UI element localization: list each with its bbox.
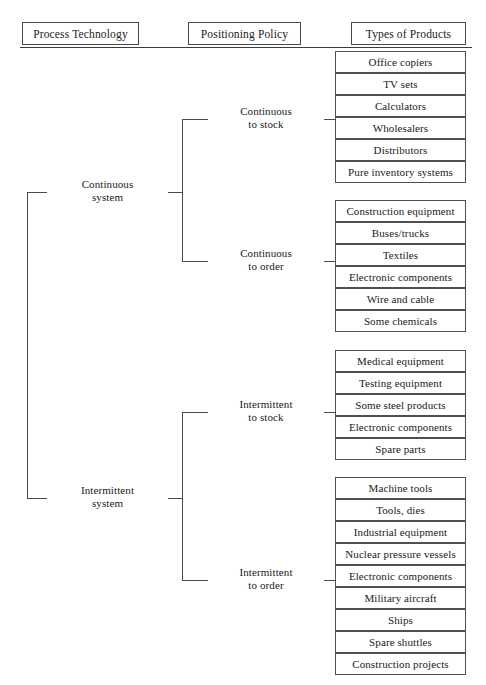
product-box: TV sets [335, 73, 466, 95]
product-box: Medical equipment [335, 350, 466, 372]
product-box-label: Ships [388, 614, 413, 626]
product-box-label: Spare shuttles [369, 636, 432, 648]
product-box-label: Some chemicals [364, 315, 437, 327]
product-box-label: Tools, dies [376, 504, 425, 516]
product-box-label: Electronic components [349, 271, 452, 283]
product-box: Wire and cable [335, 288, 466, 310]
product-box-label: Medical equipment [357, 355, 444, 367]
product-box: Spare shuttles [335, 631, 466, 653]
column-header-types-of-products: Types of Products [351, 22, 466, 45]
product-box: Electronic components [335, 416, 466, 438]
product-box-label: Some steel products [355, 399, 446, 411]
product-box: Industrial equipment [335, 521, 466, 543]
product-box: Some chemicals [335, 310, 466, 332]
branch-label-line2: to stock [211, 411, 321, 424]
positioning-branch-continuous-to-stock: Continuous to stock [208, 105, 324, 131]
product-box: Spare parts [335, 438, 466, 460]
column-header-process-technology: Process Technology [22, 22, 139, 45]
product-box: Electronic components [335, 565, 466, 587]
intermittent-positioning-bracket-spine [182, 412, 183, 580]
branch-label-line2: system [50, 191, 165, 204]
product-box: Tools, dies [335, 499, 466, 521]
product-box-label: Electronic components [349, 421, 452, 433]
product-box: Pure inventory systems [335, 161, 466, 183]
product-box-label: Electronic components [349, 570, 452, 582]
process-branch-intermittent-system: Intermittent system [47, 484, 168, 510]
branch-label-line2: to stock [211, 118, 321, 131]
product-box-label: Pure inventory systems [348, 166, 453, 178]
product-box: Wholesalers [335, 117, 466, 139]
product-box-label: Industrial equipment [354, 526, 447, 538]
product-box-label: Testing equipment [359, 377, 442, 389]
branch-label-line2: to order [211, 260, 321, 273]
product-box-label: Nuclear pressure vessels [345, 548, 456, 560]
branch-label-line1: Continuous [211, 247, 321, 260]
product-box: Textiles [335, 244, 466, 266]
process-positioning-product-diagram: Process Technology Positioning Policy Ty… [0, 0, 486, 685]
product-box: Buses/trucks [335, 222, 466, 244]
product-box: Electronic components [335, 266, 466, 288]
column-header-label: Process Technology [33, 28, 128, 40]
branch-label-line1: Intermittent [50, 484, 165, 497]
product-box: Testing equipment [335, 372, 466, 394]
product-box-label: Machine tools [369, 482, 433, 494]
product-box-label: Military aircraft [364, 592, 436, 604]
column-header-label: Positioning Policy [201, 28, 288, 40]
positioning-branch-continuous-to-order: Continuous to order [208, 247, 324, 273]
product-box: Construction projects [335, 653, 466, 675]
product-box-label: Distributors [374, 144, 428, 156]
column-header-positioning-policy: Positioning Policy [188, 22, 301, 45]
product-box-label: Wire and cable [367, 293, 435, 305]
product-box: Machine tools [335, 477, 466, 499]
branch-label-line1: Intermittent [211, 566, 321, 579]
branch-label-line2: to order [211, 579, 321, 592]
branch-label-line2: system [50, 497, 165, 510]
product-box-label: Construction equipment [346, 205, 454, 217]
product-box: Distributors [335, 139, 466, 161]
process-branch-continuous-system: Continuous system [47, 178, 168, 204]
product-box-label: Textiles [383, 249, 418, 261]
product-box: Some steel products [335, 394, 466, 416]
product-box-label: Office copiers [369, 56, 433, 68]
positioning-branch-intermittent-to-stock: Intermittent to stock [208, 398, 324, 424]
column-header-label: Types of Products [366, 28, 451, 40]
product-box: Ships [335, 609, 466, 631]
branch-label-line1: Intermittent [211, 398, 321, 411]
process-bracket-spine [27, 192, 28, 498]
positioning-branch-intermittent-to-order: Intermittent to order [208, 566, 324, 592]
product-box-label: Spare parts [375, 443, 425, 455]
product-box: Construction equipment [335, 200, 466, 222]
branch-label-line1: Continuous [211, 105, 321, 118]
product-box-label: Buses/trucks [372, 227, 429, 239]
product-box: Office copiers [335, 51, 466, 73]
product-box-label: TV sets [383, 78, 417, 90]
product-box-label: Calculators [375, 100, 426, 112]
branch-label-line1: Continuous [50, 178, 165, 191]
product-box: Nuclear pressure vessels [335, 543, 466, 565]
continuous-positioning-bracket-spine [182, 119, 183, 261]
product-box: Military aircraft [335, 587, 466, 609]
header-divider-rule [20, 47, 472, 48]
product-box: Calculators [335, 95, 466, 117]
product-box-label: Construction projects [352, 658, 449, 670]
product-box-label: Wholesalers [373, 122, 428, 134]
